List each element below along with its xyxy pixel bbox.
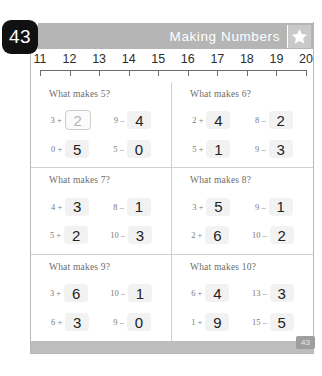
number-line-tick	[40, 70, 41, 76]
equation: 6 +4	[191, 284, 229, 302]
number-line-label: 19	[269, 52, 283, 66]
equation-row: 1 +915 –5	[178, 308, 307, 337]
equation-operand: 5 +	[50, 230, 61, 240]
equation-operand: 9 –	[255, 202, 266, 212]
equation-operand: 5 –	[113, 144, 124, 154]
answer-box[interactable]: 0	[127, 313, 151, 331]
number-line-tick	[188, 70, 189, 76]
equation-operand: 3 +	[50, 288, 61, 298]
answer-box[interactable]: 5	[270, 313, 294, 331]
answer-box[interactable]: 1	[206, 140, 230, 158]
answer-box[interactable]: 2	[65, 110, 91, 130]
equation-operand: 0 +	[51, 144, 62, 154]
equation-operand: 6 +	[51, 317, 62, 327]
equation-operand: 2 +	[192, 115, 203, 125]
answer-box[interactable]: 2	[269, 111, 293, 129]
equation-row: 5 +19 –3	[178, 135, 307, 164]
answer-box[interactable]: 1	[128, 284, 152, 302]
problem-title: What makes 5?	[49, 89, 165, 99]
equation-row: 2 +48 –2	[178, 106, 307, 135]
equation: 5 +2	[50, 226, 88, 244]
equation-operand: 2 +	[191, 230, 202, 240]
equation-operand: 6 +	[191, 288, 202, 298]
answer-box[interactable]: 1	[269, 198, 293, 216]
equation: 9 –4	[114, 111, 152, 129]
answer-box[interactable]: 6	[205, 226, 229, 244]
header-banner: Making Numbers	[38, 23, 314, 49]
equation: 5 –0	[113, 140, 151, 158]
equation-operand: 10 –	[110, 230, 125, 240]
number-line-tick	[158, 70, 159, 76]
problem-cell: What makes 7?4 +38 –15 +210 –3	[31, 168, 172, 254]
number-line-label: 17	[210, 52, 224, 66]
answer-box[interactable]: 4	[206, 111, 230, 129]
equation-operand: 4 +	[51, 202, 62, 212]
equation-operand: 3 +	[192, 202, 203, 212]
answer-box[interactable]: 3	[65, 313, 89, 331]
number-line-label: 12	[63, 52, 77, 66]
equation-row: 6 +413 –3	[178, 279, 307, 308]
page-number-badge: 43	[2, 20, 38, 54]
answer-box[interactable]: 4	[205, 284, 229, 302]
equation-row: 3 +29 –4	[37, 106, 165, 135]
number-line-label: 15	[151, 52, 165, 66]
answer-box[interactable]: 3	[65, 198, 89, 216]
equation: 3 +2	[51, 110, 91, 130]
answer-box[interactable]: 2	[64, 226, 88, 244]
answer-box[interactable]: 3	[270, 284, 294, 302]
equation-operand: 9 –	[114, 115, 125, 125]
equation-operand: 3 +	[51, 115, 62, 125]
answer-box[interactable]: 3	[269, 140, 293, 158]
number-line-label: 18	[240, 52, 254, 66]
number-line-tick	[306, 70, 307, 76]
equation: 8 –2	[255, 111, 293, 129]
number-line-labels: 11121314151617181920	[40, 52, 306, 68]
number-line-tick	[99, 70, 100, 76]
problem-title: What makes 9?	[49, 262, 165, 272]
problem-title: What makes 7?	[49, 175, 165, 185]
equation-row: 0 +55 –0	[37, 135, 165, 164]
answer-box[interactable]: 5	[206, 198, 230, 216]
number-line-tick	[276, 70, 277, 76]
problem-cell: What makes 9?3 +610 –16 +39 –0	[31, 255, 172, 341]
answer-box[interactable]: 2	[270, 226, 294, 244]
problem-cell: What makes 8?3 +59 –12 +610 –2	[172, 168, 313, 254]
answer-box[interactable]: 4	[127, 111, 151, 129]
star-icon	[287, 25, 311, 48]
equation: 13 –3	[252, 284, 294, 302]
footer-page-badge: 43	[296, 336, 315, 349]
answer-box[interactable]: 9	[205, 313, 229, 331]
number-line-tick	[129, 70, 130, 76]
problem-cell: What makes 6?2 +48 –25 +19 –3	[172, 82, 313, 168]
equation-operand: 10 –	[110, 288, 125, 298]
number-line-axis	[40, 70, 306, 71]
equation-row: 2 +610 –2	[178, 221, 307, 250]
problem-title: What makes 10?	[190, 262, 307, 272]
equation: 4 +3	[51, 198, 89, 216]
equation: 10 –2	[252, 226, 294, 244]
equation-operand: 10 –	[252, 230, 267, 240]
answer-box[interactable]: 0	[127, 140, 151, 158]
number-line-label: 14	[122, 52, 136, 66]
equation: 0 +5	[51, 140, 89, 158]
problem-title: What makes 6?	[190, 89, 307, 99]
equation-operand: 9 –	[255, 144, 266, 154]
answer-box[interactable]: 5	[65, 140, 89, 158]
equation: 9 –3	[255, 140, 293, 158]
problem-cell: What makes 5?3 +29 –40 +55 –0	[31, 82, 172, 168]
number-line-tick	[70, 70, 71, 76]
equation-row: 6 +39 –0	[37, 308, 165, 337]
answer-box[interactable]: 1	[127, 198, 151, 216]
answer-box[interactable]: 3	[128, 226, 152, 244]
answer-box[interactable]: 6	[64, 284, 88, 302]
equation-operand: 8 –	[255, 115, 266, 125]
equation: 10 –3	[110, 226, 152, 244]
equation-operand: 5 +	[192, 144, 203, 154]
number-line-label: 16	[181, 52, 195, 66]
equation-row: 3 +610 –1	[37, 279, 165, 308]
equation: 3 +5	[192, 198, 230, 216]
problem-cell: What makes 10?6 +413 –31 +915 –5	[172, 255, 313, 341]
footer-band	[31, 341, 313, 353]
equation-row: 3 +59 –1	[178, 192, 307, 221]
number-line-label: 11	[34, 52, 47, 66]
